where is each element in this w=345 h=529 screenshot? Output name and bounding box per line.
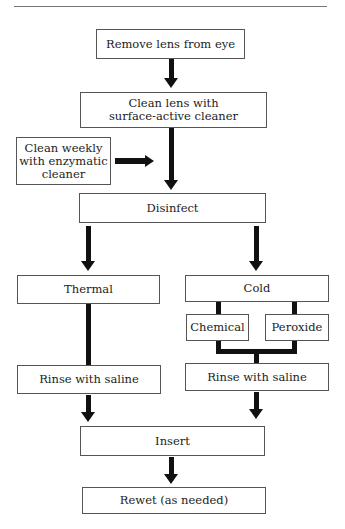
- node-label: Remove lens from eye: [106, 38, 235, 51]
- node-rewet: Rewet (as needed): [82, 487, 266, 514]
- node-label: Rinse with saline: [207, 371, 307, 384]
- node-label: Disinfect: [146, 202, 198, 215]
- arrow-shaft: [169, 128, 174, 181]
- arrow-shaft: [254, 392, 259, 410]
- node-clean-weekly: Clean weekly with enzymatic cleaner: [16, 137, 111, 185]
- arrow-down-icon: [249, 409, 263, 419]
- node-label: Cold: [244, 282, 271, 295]
- node-label: Rewet (as needed): [120, 494, 228, 507]
- connector-line: [292, 302, 297, 314]
- arrow-shaft: [86, 226, 91, 262]
- node-insert: Insert: [80, 426, 265, 456]
- node-label: Insert: [155, 435, 190, 448]
- node-thermal: Thermal: [17, 275, 160, 304]
- arrow-down-icon: [164, 78, 178, 88]
- node-label: Rinse with saline: [39, 373, 139, 386]
- arrow-down-icon: [249, 261, 263, 271]
- node-peroxide: Peroxide: [265, 314, 329, 341]
- node-label: Chemical: [190, 321, 245, 334]
- node-cold: Cold: [185, 275, 329, 302]
- node-label: Thermal: [64, 283, 113, 296]
- node-label: surface-active cleaner: [109, 110, 238, 123]
- node-chemical: Chemical: [186, 314, 249, 341]
- connector-line: [86, 304, 91, 365]
- node-label: cleaner: [42, 168, 86, 181]
- node-remove-lens: Remove lens from eye: [96, 29, 245, 59]
- arrow-shaft: [86, 395, 91, 413]
- arrow-shaft: [254, 226, 259, 262]
- arrow-shaft: [169, 457, 174, 475]
- arrow-down-icon: [164, 180, 178, 190]
- connector-line: [254, 353, 259, 363]
- node-label: with enzymatic: [19, 155, 107, 168]
- node-rinse-right: Rinse with saline: [185, 363, 329, 391]
- arrow-down-icon: [81, 261, 95, 271]
- arrow-down-icon: [81, 412, 95, 422]
- top-rule: [14, 6, 327, 7]
- node-disinfect: Disinfect: [79, 193, 266, 223]
- arrow-right-icon: [145, 155, 154, 167]
- node-label: Clean weekly: [25, 142, 103, 155]
- node-clean-lens: Clean lens with surface-active cleaner: [80, 92, 267, 128]
- arrow-shaft: [115, 158, 145, 164]
- node-rinse-left: Rinse with saline: [17, 365, 161, 394]
- arrow-shaft: [169, 59, 174, 79]
- connector-line: [216, 302, 221, 314]
- node-label: Peroxide: [272, 321, 323, 334]
- arrow-down-icon: [164, 474, 178, 484]
